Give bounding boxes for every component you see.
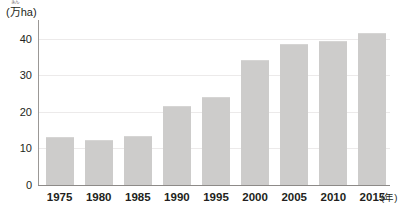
bar-2005 <box>280 44 308 185</box>
bar-1995 <box>202 97 230 186</box>
y-axis-tick-label: 10 <box>20 143 32 154</box>
x-axis-tick-label-2015: 2015 <box>350 190 394 204</box>
plot-area: 010203040 <box>38 24 390 186</box>
y-axis-tick-label: 20 <box>20 106 32 117</box>
x-axis-tick-label-2010: 2010 <box>311 190 355 204</box>
y-unit-kanji-with-ruby: まん万 <box>10 6 21 18</box>
y-unit-ruby: まん <box>10 0 21 4</box>
x-axis-tick-label-1990: 1990 <box>155 190 199 204</box>
bar-1985 <box>124 136 152 185</box>
y-axis-unit-label: (まん万ha) <box>6 6 37 18</box>
x-axis-tick-label-1980: 1980 <box>77 190 121 204</box>
bar-1980 <box>85 140 113 185</box>
bar-2000 <box>241 60 269 185</box>
y-axis-tick-label: 0 <box>26 180 32 191</box>
bar-1975 <box>46 137 74 185</box>
x-axis-tick-label-2000: 2000 <box>233 190 277 204</box>
bar-chart: (まん万ha) 010203040 (年) 197519801985199019… <box>0 0 403 218</box>
y-axis-tick-label: 40 <box>20 33 32 44</box>
y-axis-tick-label: 30 <box>20 70 32 81</box>
y-unit-kanji: 万 <box>10 6 21 18</box>
y-unit-suffix: ha) <box>21 6 37 18</box>
bar-2010 <box>319 41 347 186</box>
bar-1990 <box>163 106 191 185</box>
x-axis-tick-label-1995: 1995 <box>194 190 238 204</box>
x-axis-tick-label-1975: 1975 <box>38 190 82 204</box>
bar-series <box>38 24 390 185</box>
x-axis-ticks: (年) 197519801985199019952000200520102015 <box>38 190 403 210</box>
x-axis-line <box>38 185 390 186</box>
x-axis-tick-label-2005: 2005 <box>272 190 316 204</box>
x-axis-tick-label-1985: 1985 <box>116 190 160 204</box>
bar-2015 <box>358 33 386 185</box>
